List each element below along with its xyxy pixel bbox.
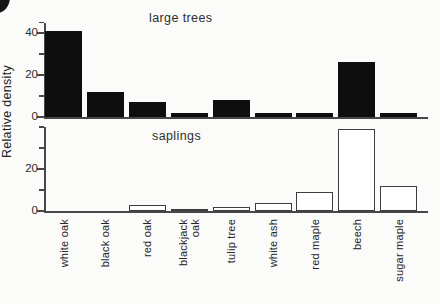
tick-label: 0 bbox=[12, 110, 38, 122]
x-category-label: white oak bbox=[58, 219, 70, 295]
bar bbox=[171, 209, 208, 211]
x-category-label: white ash bbox=[267, 219, 279, 295]
axis-tick bbox=[37, 210, 44, 212]
tick-label: 20 bbox=[12, 162, 38, 174]
x-category-label: black oak bbox=[99, 219, 111, 295]
axis-minor-tick bbox=[39, 189, 44, 190]
bar bbox=[87, 92, 124, 117]
bar bbox=[338, 129, 375, 211]
scan-artifact bbox=[0, 0, 10, 13]
bar bbox=[213, 100, 250, 117]
tick-label: 40 bbox=[12, 26, 38, 38]
tick-label: 20 bbox=[12, 68, 38, 80]
bar bbox=[213, 207, 250, 211]
panel-title-saplings: saplings bbox=[152, 129, 201, 143]
x-axis bbox=[44, 211, 428, 213]
bar bbox=[171, 113, 208, 117]
x-axis bbox=[44, 117, 428, 119]
x-category-label: beech bbox=[351, 219, 363, 295]
bar bbox=[380, 186, 417, 211]
bar bbox=[129, 102, 166, 117]
x-category-label: red oak bbox=[141, 219, 153, 295]
bar bbox=[380, 113, 417, 117]
x-category-label: sugar maple bbox=[393, 219, 405, 295]
axis-tick bbox=[37, 116, 44, 118]
tick-label: 0 bbox=[12, 204, 38, 216]
bar-chart-figure: Relative density large trees saplings 02… bbox=[0, 0, 440, 304]
axis-tick bbox=[37, 74, 44, 76]
x-category-label: blackjack oak bbox=[177, 219, 201, 295]
bar bbox=[255, 203, 292, 211]
axis-tick bbox=[37, 168, 44, 170]
x-category-label: tulip tree bbox=[225, 219, 237, 295]
axis-tick bbox=[37, 32, 44, 34]
axis-minor-tick bbox=[39, 147, 44, 148]
bar bbox=[129, 205, 166, 211]
panel-title-large-trees: large trees bbox=[149, 11, 212, 25]
bar bbox=[338, 62, 375, 117]
bar bbox=[255, 113, 292, 117]
bar bbox=[296, 113, 333, 117]
y-axis bbox=[44, 127, 46, 211]
axis-minor-tick bbox=[39, 22, 44, 23]
axis-minor-tick bbox=[39, 126, 44, 127]
bar bbox=[45, 31, 82, 117]
axis-minor-tick bbox=[39, 95, 44, 96]
axis-minor-tick bbox=[39, 53, 44, 54]
x-category-label: red maple bbox=[309, 219, 321, 295]
bar bbox=[296, 192, 333, 211]
